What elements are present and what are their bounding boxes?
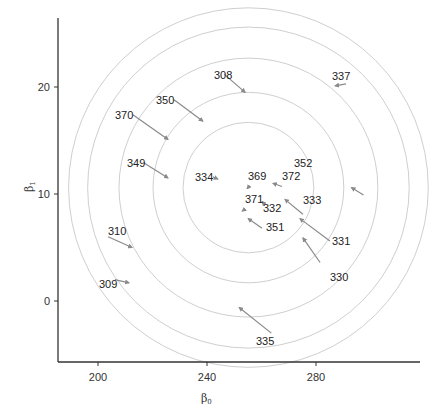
point-label-308: 308 xyxy=(214,69,232,81)
arrow-337 xyxy=(335,84,346,86)
arrow-335 xyxy=(239,307,271,333)
arrow-331 xyxy=(300,219,330,241)
y-tick-label-20: 20 xyxy=(38,81,50,93)
arrow-series xyxy=(108,74,363,333)
point-label-332: 332 xyxy=(263,202,281,214)
point-label-333: 333 xyxy=(303,194,321,206)
arrow-369 xyxy=(247,187,249,189)
y-tick-label-10: 10 xyxy=(38,188,50,200)
x-tick-label-200: 200 xyxy=(89,371,107,383)
point-label-352: 352 xyxy=(294,157,312,169)
point-labels: 3083373503703493343523693723713323333513… xyxy=(99,69,350,347)
point-label-370: 370 xyxy=(115,109,133,121)
point-label-351: 351 xyxy=(266,221,284,233)
y-axis-title-subscript: 1 xyxy=(29,181,37,185)
arrow-350 xyxy=(174,100,203,121)
arrow-372 xyxy=(273,183,282,186)
point-label-372: 372 xyxy=(282,170,300,182)
point-label-369: 369 xyxy=(248,170,266,182)
point-label-310: 310 xyxy=(108,225,126,237)
arrow-334 xyxy=(213,177,218,179)
arrow-chart: 3083373503703493343523693723713323333513… xyxy=(0,0,443,420)
point-label-334: 334 xyxy=(195,171,213,183)
arrow-370 xyxy=(133,115,168,140)
arrow-351 xyxy=(248,219,262,229)
point-label-335: 335 xyxy=(256,335,274,347)
point-label-330: 330 xyxy=(330,271,348,283)
arrow-310 xyxy=(108,237,132,248)
point-label-337: 337 xyxy=(332,70,350,82)
point-label-350: 350 xyxy=(156,94,174,106)
point-label-331: 331 xyxy=(332,235,350,247)
y-axis-title: β1 xyxy=(23,181,37,192)
point-label-309: 309 xyxy=(99,278,117,290)
y-tick-label-0: 0 xyxy=(44,295,50,307)
point-label-371: 371 xyxy=(245,193,263,205)
arrow-371 xyxy=(242,209,245,211)
arrow-333 xyxy=(285,199,303,214)
point-label-349: 349 xyxy=(127,157,145,169)
x-tick-label-280: 280 xyxy=(307,371,325,383)
x-axis-title: β0 xyxy=(201,392,212,406)
x-axis-title-subscript: 0 xyxy=(207,398,211,406)
arrow-352 xyxy=(351,188,363,195)
x-tick-label-240: 240 xyxy=(198,371,216,383)
